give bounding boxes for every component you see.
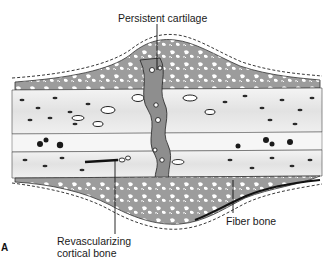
label-fiber-bone: Fiber bone xyxy=(226,215,276,227)
callus-diagram xyxy=(0,0,326,258)
label-revascularizing: Revascularizing xyxy=(57,235,131,247)
label-cortical-bone: cortical bone xyxy=(57,247,117,258)
upper-callus xyxy=(12,34,322,90)
label-persistent-cartilage: Persistent cartilage xyxy=(118,12,207,24)
panel-label: A xyxy=(1,242,8,253)
